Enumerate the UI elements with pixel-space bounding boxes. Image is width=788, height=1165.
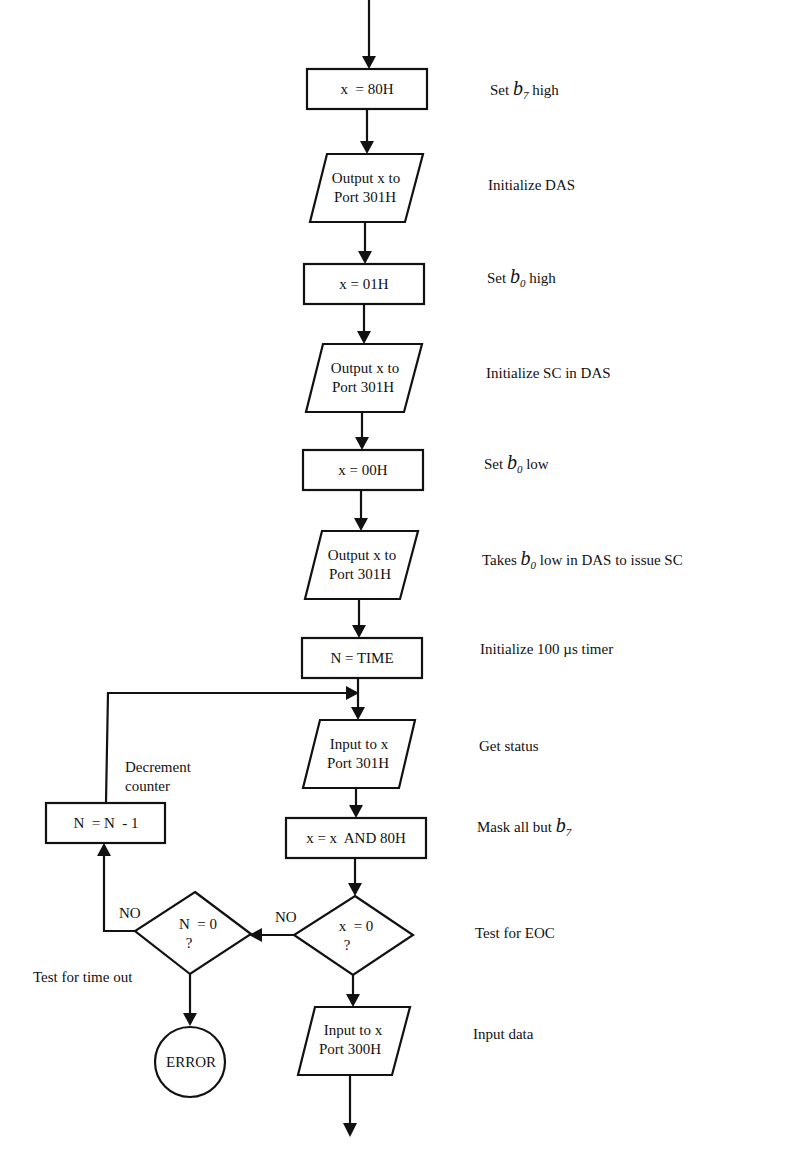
annotation: Initialize 100 µs timer — [480, 641, 613, 657]
edge-label-x-no: NO — [275, 909, 297, 925]
node-label: x = 0 — [339, 918, 374, 934]
decision-diamond — [135, 892, 251, 974]
node-label: x = 00H — [338, 462, 387, 478]
arrowhead-icon — [351, 707, 365, 720]
node-input-300h: Input to x Port 300H — [298, 1007, 410, 1075]
node-label: Port 300H — [319, 1041, 381, 1057]
node-label: Output x to — [328, 547, 396, 563]
node-output-301h-2: Output x to Port 301H — [306, 344, 422, 412]
node-set-00h: x = 00H — [303, 450, 423, 490]
node-mask: x = x AND 80H — [286, 818, 426, 858]
node-decision-n-zero: N = 0 ? — [135, 892, 251, 974]
node-label: ? — [186, 935, 193, 951]
arrowhead-icon — [360, 141, 374, 154]
annotation: Takes b0 low in DAS to issue SC — [482, 547, 683, 571]
node-label: x = x AND 80H — [306, 830, 406, 846]
node-output-301h-3: Output x to Port 301H — [305, 531, 418, 599]
io-parallelogram — [306, 344, 422, 412]
node-label: N = TIME — [330, 650, 393, 666]
io-parallelogram — [310, 154, 423, 222]
node-label: Port 301H — [327, 755, 389, 771]
annotation: Test for EOC — [475, 925, 555, 941]
edge-label-n-no: NO — [119, 905, 141, 921]
node-label: x = 80H — [340, 81, 393, 97]
annotation: Mask all but b7 — [477, 814, 572, 838]
side-label-timeout: Test for time out — [33, 969, 133, 985]
annotation: Set b7 high — [490, 77, 559, 101]
node-label: Input to x — [330, 736, 389, 752]
annotation: Initialize DAS — [488, 177, 575, 193]
node-input-301h: Input to x Port 301H — [303, 720, 415, 788]
node-label: Output x to — [331, 360, 399, 376]
node-output-301h-1: Output x to Port 301H — [310, 154, 423, 222]
annotation: Initialize SC in DAS — [486, 365, 611, 381]
arrowhead-icon — [357, 331, 371, 344]
arrowhead-icon — [346, 994, 360, 1007]
arrowhead-icon — [358, 251, 372, 264]
node-label: Port 301H — [332, 379, 394, 395]
node-label: ? — [344, 937, 351, 953]
arrowhead-icon — [352, 625, 366, 638]
node-label: N = N - 1 — [73, 815, 138, 831]
node-label: x = 01H — [339, 276, 388, 292]
io-parallelogram — [305, 531, 418, 599]
flowchart-canvas: x = 80H Output x to Port 301H x = 01H Ou… — [0, 0, 788, 1165]
arrowhead-icon — [97, 843, 111, 856]
node-label: Output x to — [332, 170, 400, 186]
arrowhead-icon — [349, 805, 363, 818]
node-decrement: N = N - 1 — [46, 803, 165, 843]
node-error: ERROR — [155, 1027, 225, 1097]
node-n-time: N = TIME — [302, 638, 422, 678]
side-label-decrement-2: counter — [125, 778, 170, 794]
annotation: Get status — [479, 738, 539, 754]
node-label: Input to x — [324, 1022, 383, 1038]
annotation: Input data — [473, 1026, 534, 1042]
io-parallelogram — [303, 720, 415, 788]
annotation: Set b0 low — [484, 451, 549, 475]
arrowhead-icon — [355, 437, 369, 450]
arrowhead-icon — [343, 1123, 357, 1137]
node-label: Port 301H — [329, 566, 391, 582]
node-label: ERROR — [166, 1054, 216, 1070]
annotations: Set b7 high Initialize DAS Set b0 high I… — [473, 77, 683, 1042]
decision-diamond — [294, 896, 413, 975]
node-set-80h: x = 80H — [307, 69, 427, 109]
node-label: N = 0 — [179, 916, 217, 932]
node-label: Port 301H — [334, 189, 396, 205]
node-decision-x-zero: x = 0 ? — [294, 896, 413, 975]
side-label-decrement-1: Decrement — [125, 759, 192, 775]
arrowhead-icon — [183, 1013, 197, 1026]
arrowhead-icon — [348, 883, 362, 896]
arrowhead-icon — [354, 518, 368, 531]
arrowhead-icon — [362, 56, 376, 69]
node-set-01h: x = 01H — [304, 264, 424, 304]
annotation: Set b0 high — [487, 265, 556, 289]
